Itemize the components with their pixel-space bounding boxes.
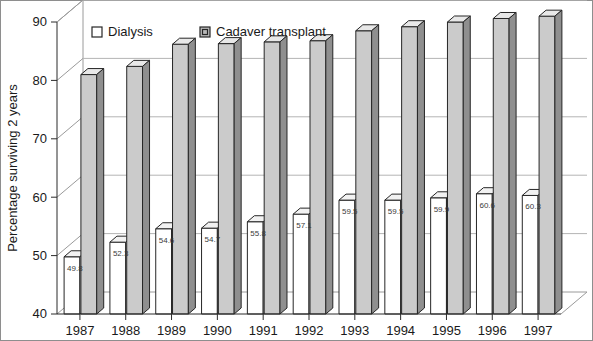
bar-value-label: 59.5 [342, 207, 358, 216]
bar-value-label: 55.8 [250, 229, 266, 238]
legend-item-label: Cadaver transplant [216, 24, 326, 39]
bar-dialysis-face [431, 198, 447, 314]
bar-dialysis-face [522, 195, 538, 314]
y-tick-label: 60 [33, 190, 47, 205]
legend-swatch-dialysis-icon [92, 27, 102, 37]
gridline-depth-connector [57, 175, 83, 197]
bar-cadaver-face [356, 31, 372, 314]
y-tick-label: 90 [33, 14, 47, 29]
bar-group [110, 60, 150, 314]
chart-canvas: 405060708090 198719881989199019911992199… [0, 0, 593, 341]
x-tick-label: 1996 [478, 323, 507, 338]
x-tick-label: 1992 [295, 323, 324, 338]
bar-cadaver-side [234, 38, 241, 314]
bar-value-label: 60.3 [525, 202, 541, 211]
bar-group [522, 10, 562, 314]
bar-cadaver-side [555, 10, 562, 314]
legend-swatch-inner-icon [203, 30, 208, 35]
x-tick-label: 1988 [111, 323, 140, 338]
bar-cadaver-face [402, 27, 418, 314]
bar-group [202, 38, 242, 314]
bar-cadaver-side [372, 25, 379, 314]
bar-cadaver-side [463, 16, 470, 314]
legend-item-label: Dialysis [108, 24, 153, 39]
bar-cadaver-side [280, 36, 287, 314]
bar-cadaver-side [326, 35, 333, 314]
bar-cadaver-face [127, 66, 143, 314]
bar-cadaver-face [264, 42, 280, 314]
bar-value-label: 60.6 [479, 201, 495, 210]
bar-dialysis-face [385, 200, 401, 314]
bar-cadaver-side [417, 21, 424, 314]
bar-group [339, 25, 379, 314]
bar-cadaver-face [310, 41, 326, 314]
y-axis-title-text: Percentage surviving 2 years [5, 84, 20, 252]
bar-cadaver-face [81, 75, 97, 314]
x-tick-label: 1997 [524, 323, 553, 338]
bar-group [385, 21, 425, 314]
bar-cadaver-side [143, 60, 150, 314]
floor-right-diagonal [561, 292, 587, 314]
bar-value-label: 54.6 [159, 236, 175, 245]
y-tick-label: 70 [33, 131, 47, 146]
bar-chart: 405060708090 198719881989199019911992199… [0, 0, 593, 341]
bar-cadaver-face [218, 44, 234, 314]
y-tick-label: 40 [33, 306, 47, 321]
bar-value-label: 49.8 [67, 264, 83, 273]
gridline-depth-connector [57, 58, 83, 80]
x-tick-label: 1987 [65, 323, 94, 338]
y-tick-labels: 405060708090 [33, 14, 47, 321]
bar-dialysis-face [339, 200, 355, 314]
bar-cadaver-side [509, 12, 516, 314]
bar-dialysis-face [476, 194, 492, 314]
x-tick-label: 1993 [340, 323, 369, 338]
bar-cadaver-side [97, 69, 104, 314]
x-tick-labels: 1987198819891990199119921993199419951996… [65, 323, 552, 338]
bar-cadaver-face [173, 44, 189, 314]
bar-value-label: 59.5 [388, 207, 404, 216]
bar-value-label: 59.9 [434, 205, 450, 214]
bar-cadaver-side [188, 38, 195, 314]
gridline-depth-connector [57, 117, 83, 139]
y-tick-label: 80 [33, 73, 47, 88]
x-tick-label: 1990 [203, 323, 232, 338]
bar-group [64, 69, 104, 314]
x-tick-label: 1995 [432, 323, 461, 338]
x-tick-label: 1994 [386, 323, 415, 338]
bar-cadaver-face [539, 16, 555, 314]
y-axis-title: Percentage surviving 2 years [5, 84, 20, 252]
bar-value-label: 54.7 [205, 235, 221, 244]
y-tick-label: 50 [33, 248, 47, 263]
bar-group [156, 38, 196, 314]
bar-group [293, 35, 333, 314]
gridline-depth-connector [57, 0, 83, 22]
x-tick-label: 1991 [249, 323, 278, 338]
bar-groups [64, 10, 562, 314]
bar-group [476, 12, 516, 314]
bar-cadaver-face [493, 18, 509, 314]
bar-group [431, 16, 471, 314]
bar-value-label: 52.3 [113, 249, 129, 258]
bar-value-label: 57.1 [296, 221, 312, 230]
chart-legend: DialysisCadaver transplant [92, 24, 326, 39]
bar-cadaver-face [447, 22, 463, 314]
x-tick-label: 1989 [157, 323, 186, 338]
